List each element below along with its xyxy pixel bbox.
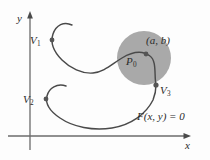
vertex-label-v1-base: V [30,34,37,46]
point-label-p0: P0 [126,56,137,69]
vertex-label-v3-base: V [160,84,167,96]
y-axis-label: y [17,13,22,24]
curve-lower-branch [47,85,156,129]
point-label-p0-subscript: 0 [133,61,137,69]
equation-label: F(x, y) = 0 [137,111,185,122]
vertex-label-v1: V1 [30,35,41,48]
coordinate-label-ab: (a, b) [146,35,170,46]
x-axis-label: x [185,140,190,151]
point-label-p0-base: P [126,55,133,67]
vertex-marker-v3 [153,82,158,87]
vertex-marker-v1 [50,38,55,43]
figure-canvas [0,0,210,160]
vertex-label-v2-base: V [23,93,30,105]
vertex-label-v2-subscript: 2 [30,99,34,107]
vertex-label-v1-subscript: 1 [37,40,41,48]
vertex-label-v3-subscript: 3 [167,90,171,98]
implicit-curve-figure: y x V1 V2 V3 P0 (a, b) F(x, y) = 0 [0,0,210,160]
vertex-marker-v2 [44,97,49,102]
vertex-label-v3: V3 [160,85,171,98]
point-marker-p0 [144,52,149,57]
vertex-label-v2: V2 [23,94,34,107]
y-axis-arrowhead [27,11,33,19]
